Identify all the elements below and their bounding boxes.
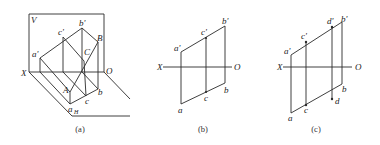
label-X-a: X — [20, 68, 27, 78]
h-plane-right-edge — [104, 72, 130, 99]
line-aH-b — [70, 89, 98, 104]
front-view-ab-c — [291, 22, 342, 55]
label-a-b: a — [178, 105, 183, 115]
label-c-prime-c: c' — [301, 31, 308, 41]
label-b-b: b — [224, 85, 229, 95]
point-d-prime-c — [331, 26, 333, 28]
label-O-b: O — [234, 62, 241, 72]
label-c-c: c — [304, 105, 308, 115]
label-b-prime-c: b' — [341, 14, 349, 24]
label-V: V — [31, 15, 38, 25]
label-d-prime-c: d' — [327, 16, 335, 26]
label-aH: a — [68, 104, 73, 114]
projector-c-prime-C — [63, 37, 84, 61]
point-c-prime-c — [305, 41, 307, 43]
label-d-c: d — [335, 96, 340, 106]
top-view-ab-b — [181, 83, 225, 104]
label-B: B — [97, 33, 103, 43]
point-d-c — [331, 98, 333, 100]
label-c-b: c — [204, 93, 208, 103]
label-A: A — [62, 85, 69, 95]
label-a-prime-c: a' — [284, 46, 292, 56]
label-b-a: b — [98, 87, 103, 97]
vertical-C-c — [84, 61, 86, 96]
point-c-prime-b — [205, 37, 207, 39]
panel-b: X O a' c' b' a c b (b) — [156, 16, 241, 134]
panel-a: V X O a' c' b' B C A a H c b (a) — [20, 14, 130, 134]
label-O-c: O — [355, 62, 362, 72]
label-b-prime-b: b' — [222, 16, 230, 26]
label-a-prime-b: a' — [174, 43, 182, 53]
projector-b-prime-B — [82, 28, 98, 42]
label-a-c: a — [288, 113, 293, 123]
label-b-c: b — [342, 84, 347, 94]
label-aH-sub: H — [73, 109, 79, 115]
label-a-prime-a: a' — [32, 49, 40, 59]
label-X-b: X — [156, 62, 163, 72]
projection-diagram: V X O a' c' b' B C A a H c b (a) X O a' … — [0, 0, 380, 145]
label-c-a: c — [85, 96, 89, 106]
caption-a: (a) — [75, 124, 85, 134]
label-c-prime-b: c' — [201, 27, 208, 37]
label-b-prime-a: b' — [79, 18, 87, 28]
caption-b: (b) — [198, 124, 208, 134]
label-O-a: O — [106, 66, 113, 76]
panel-c: X O a' c' d' b' a c d b (c) — [276, 14, 362, 134]
label-X-c: X — [276, 62, 283, 72]
label-C: C — [84, 47, 91, 57]
label-c-prime-a: c' — [58, 27, 65, 37]
caption-c: (c) — [311, 124, 321, 134]
